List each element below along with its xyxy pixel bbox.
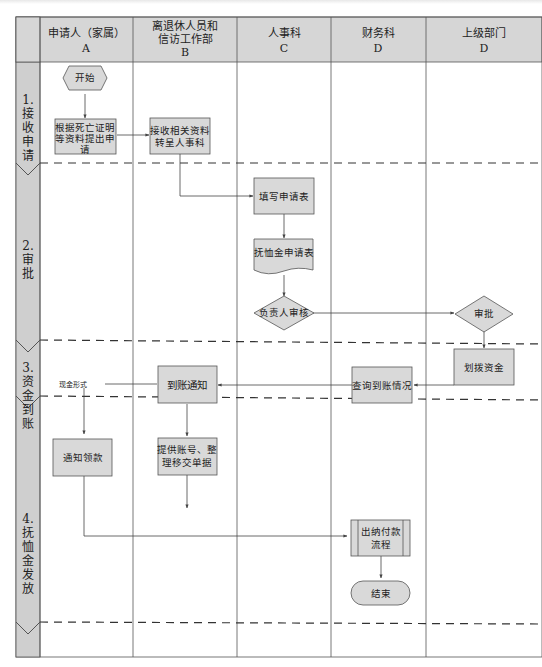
phase-separator-4 (16, 622, 542, 634)
lane-d1-title: 财务科 (362, 26, 395, 40)
phase-1-label: 1. 接 收 申 请 (22, 93, 34, 163)
svg-text:审批: 审批 (474, 308, 494, 319)
svg-text:申: 申 (22, 135, 34, 149)
node-check-arrival: 查询到账情况 (352, 367, 412, 403)
svg-text:1.: 1. (22, 93, 33, 107)
svg-text:等资料提出申: 等资料提出申 (55, 133, 115, 144)
svg-text:出纳付款: 出纳付款 (361, 526, 401, 537)
lane-d2-title: 上级部门 (462, 26, 506, 40)
node-arrival-notice: 到账通知 (158, 366, 217, 403)
node-fill-form: 填写申请表 (254, 178, 314, 214)
svg-text:收: 收 (22, 121, 34, 135)
lane-dividers (40, 17, 426, 657)
swimlane-diagram: 申请人（家属） A 离退休人员和 信访工作部 B 人事科 C 财务科 D 上级部… (0, 0, 542, 667)
lane-b-title-line2: 信访工作部 (158, 32, 213, 46)
phase-3-label: 3. 资 金 到 账 (22, 361, 34, 431)
lane-b-code: B (181, 46, 189, 59)
svg-text:发: 发 (22, 567, 34, 582)
node-cashier-payment: 出纳付款 流程 (351, 520, 410, 556)
connectors (84, 94, 484, 578)
svg-text:4.: 4. (22, 512, 33, 526)
svg-text:2.: 2. (22, 239, 33, 253)
phase-separators (16, 163, 542, 634)
svg-text:审: 审 (22, 252, 34, 267)
phase-header-cell (16, 17, 40, 62)
svg-text:到账通知: 到账通知 (167, 379, 207, 391)
svg-text:负责人审核: 负责人审核 (259, 307, 309, 318)
svg-text:放: 放 (22, 581, 34, 596)
svg-text:恤: 恤 (22, 540, 34, 554)
svg-text:抚恤金申请表: 抚恤金申请表 (254, 247, 314, 258)
node-end: 结束 (351, 581, 410, 605)
svg-text:转呈人事科: 转呈人事科 (155, 137, 205, 148)
svg-text:账: 账 (22, 417, 34, 431)
svg-text:资: 资 (22, 375, 34, 389)
svg-text:批: 批 (22, 266, 34, 281)
svg-text:提供账号、整: 提供账号、整 (157, 444, 217, 455)
svg-text:查询到账情况: 查询到账情况 (352, 380, 412, 391)
lane-a-code: A (81, 42, 91, 55)
node-start: 开始 (63, 66, 107, 90)
edge-label-cash: 现金形式 (59, 380, 87, 389)
lane-b-title-line1: 离退休人员和 (152, 19, 218, 33)
lane-d2-code: D (480, 42, 489, 55)
lane-d1-code: D (374, 42, 383, 55)
node-receive-materials: 接收相关资料 转呈人事科 (150, 118, 210, 154)
svg-text:抚: 抚 (22, 526, 34, 540)
svg-text:根据死亡证明: 根据死亡证明 (55, 122, 115, 133)
lane-c-title: 人事科 (268, 26, 301, 40)
node-allocate-funds: 划拨资金 (454, 349, 514, 385)
svg-text:请: 请 (22, 149, 34, 163)
lane-a-title: 申请人（家属） (48, 26, 125, 40)
svg-text:3.: 3. (22, 361, 33, 375)
diagram-frame (16, 17, 542, 657)
node-notify-collect: 通知领款 (53, 439, 112, 476)
phase-4-label: 4. 抚 恤 金 发 放 (22, 512, 34, 596)
svg-text:填写申请表: 填写申请表 (259, 191, 309, 202)
svg-text:金: 金 (22, 553, 34, 568)
svg-text:划拨资金: 划拨资金 (464, 362, 504, 373)
svg-text:到: 到 (22, 403, 34, 417)
node-provide-account: 提供账号、整 理移交单据 (157, 438, 217, 475)
node-submit-application: 根据死亡证明 等资料提出申 请 (55, 119, 116, 155)
svg-text:通知领款: 通知领款 (63, 452, 103, 463)
svg-text:接收相关资料: 接收相关资料 (150, 125, 210, 136)
lane-c-code: C (280, 42, 288, 55)
svg-text:金: 金 (22, 388, 34, 403)
node-head-review: 负责人审核 (254, 296, 314, 330)
svg-text:结束: 结束 (371, 588, 391, 599)
svg-text:流程: 流程 (371, 539, 391, 550)
svg-text:开始: 开始 (75, 72, 95, 83)
svg-text:请: 请 (80, 144, 90, 155)
phase-2-label: 2. 审 批 (22, 239, 34, 281)
svg-text:接: 接 (22, 106, 34, 121)
node-pension-application-document: 抚恤金申请表 (254, 239, 314, 274)
svg-text:理移交单据: 理移交单据 (162, 457, 212, 468)
phase-separator-1 (16, 163, 542, 175)
phase-separator-3 (16, 396, 542, 408)
node-approve: 审批 (455, 296, 513, 332)
